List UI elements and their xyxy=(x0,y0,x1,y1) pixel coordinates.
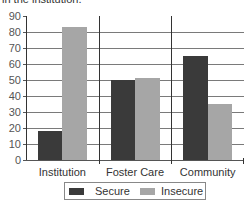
gridline xyxy=(26,32,244,33)
caption-text: in the institution. xyxy=(2,0,82,5)
y-tick-label: 30 xyxy=(0,107,21,118)
y-tick-label: 60 xyxy=(0,59,21,70)
bar-secure-foster-care xyxy=(111,80,136,160)
bar-secure-community xyxy=(183,56,208,160)
x-axis-end-tick xyxy=(243,158,244,164)
x-tick-label: Foster Care xyxy=(99,166,172,178)
x-tick-label: Institution xyxy=(26,166,99,178)
y-axis xyxy=(26,16,27,161)
y-tick-label: 40 xyxy=(0,91,21,102)
gridline xyxy=(26,48,244,49)
bar-insecure-community xyxy=(208,104,233,160)
legend-swatch-insecure xyxy=(140,188,155,195)
legend-swatch-secure xyxy=(69,188,84,195)
category-separator xyxy=(99,16,100,164)
y-tick-label: 0 xyxy=(0,155,21,166)
y-tick-label: 50 xyxy=(0,75,21,86)
category-separator xyxy=(171,16,172,164)
bar-insecure-institution xyxy=(62,27,87,160)
legend-label-secure: Secure xyxy=(95,185,130,197)
y-tick-label: 20 xyxy=(0,123,21,134)
x-axis xyxy=(26,160,244,161)
y-tick-label: 70 xyxy=(0,43,21,54)
bar-secure-institution xyxy=(38,131,63,160)
gridline xyxy=(26,64,244,65)
bar-insecure-foster-care xyxy=(135,78,160,160)
legend: Secure Insecure xyxy=(64,182,206,200)
y-tick-label: 10 xyxy=(0,139,21,150)
y-tick-label: 90 xyxy=(0,11,21,22)
y-tick-label: 80 xyxy=(0,27,21,38)
legend-label-insecure: Insecure xyxy=(161,185,203,197)
x-tick-label: Community xyxy=(171,166,244,178)
